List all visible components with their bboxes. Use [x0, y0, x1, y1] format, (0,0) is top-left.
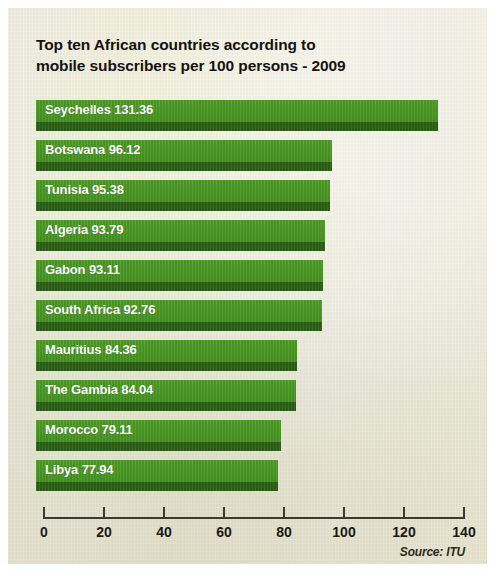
x-axis-tick	[283, 507, 285, 519]
bar-row: Mauritius 84.36	[36, 340, 297, 371]
bar-row: Morocco 79.11	[36, 420, 281, 451]
chart-panel: Top ten African countries according to m…	[8, 8, 487, 564]
bar-dark-band	[36, 162, 332, 171]
bar-row: South Africa 92.76	[36, 300, 322, 331]
bar-dark-band	[36, 202, 330, 211]
x-axis-tick-label: 0	[40, 524, 48, 540]
bar-row: The Gambia 84.04	[36, 380, 296, 411]
x-axis-line	[44, 517, 464, 519]
bar-dark-band	[36, 282, 323, 291]
bar-dark-band	[36, 482, 278, 491]
bar-row: Algeria 93.79	[36, 220, 325, 251]
x-axis-tick-label: 20	[96, 524, 112, 540]
bar-dark-band	[36, 322, 322, 331]
chart-title: Top ten African countries according to m…	[36, 34, 456, 76]
bar-label: Mauritius 84.36	[45, 342, 137, 357]
chart-title-line-2: mobile subscribers per 100 persons - 200…	[36, 55, 456, 76]
bar-label: Gabon 93.11	[45, 262, 120, 277]
x-axis-tick	[463, 507, 465, 519]
x-axis-tick	[43, 507, 45, 519]
x-axis-tick	[403, 507, 405, 519]
bar-label: Botswana 96.12	[45, 142, 140, 157]
bar-label: South Africa 92.76	[45, 302, 155, 317]
bar-label: The Gambia 84.04	[45, 382, 153, 397]
bar-row: Tunisia 95.38	[36, 180, 330, 211]
x-axis-tick-label: 60	[216, 524, 232, 540]
bar-row: Gabon 93.11	[36, 260, 323, 291]
bar-row: Seychelles 131.36	[36, 100, 438, 131]
chart-title-line-1: Top ten African countries according to	[36, 34, 456, 55]
bar-dark-band	[36, 402, 296, 411]
bar-label: Morocco 79.11	[45, 422, 133, 437]
x-axis-tick	[223, 507, 225, 519]
x-axis-tick	[103, 507, 105, 519]
x-axis-tick-label: 100	[332, 524, 355, 540]
x-axis-tick-label: 140	[452, 524, 475, 540]
bar-label: Tunisia 95.38	[45, 182, 124, 197]
x-axis-tick	[163, 507, 165, 519]
bar-label: Seychelles 131.36	[45, 102, 153, 117]
source-note: Source: ITU	[400, 545, 465, 559]
x-axis-tick-label: 80	[276, 524, 292, 540]
bar-dark-band	[36, 362, 297, 371]
bar-dark-band	[36, 122, 438, 131]
bar-label: Libya 77.94	[45, 462, 113, 477]
bar-dark-band	[36, 442, 281, 451]
bar-chart-plot-area: Seychelles 131.36Botswana 96.12Tunisia 9…	[36, 100, 476, 502]
bar-dark-band	[36, 242, 325, 251]
x-axis-tick-label: 40	[156, 524, 172, 540]
bar-row: Botswana 96.12	[36, 140, 332, 171]
bar-row: Libya 77.94	[36, 460, 278, 491]
x-axis-tick	[343, 507, 345, 519]
x-axis-tick-label: 120	[392, 524, 415, 540]
bar-label: Algeria 93.79	[45, 222, 123, 237]
